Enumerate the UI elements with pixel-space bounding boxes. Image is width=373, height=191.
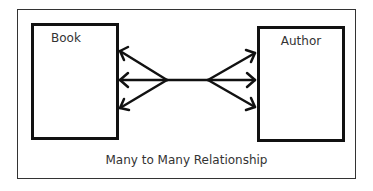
crows-foot-author-icon: [208, 50, 255, 110]
diagram-caption: Many to Many Relationship: [0, 153, 373, 167]
crows-foot-book-icon: [120, 47, 167, 110]
